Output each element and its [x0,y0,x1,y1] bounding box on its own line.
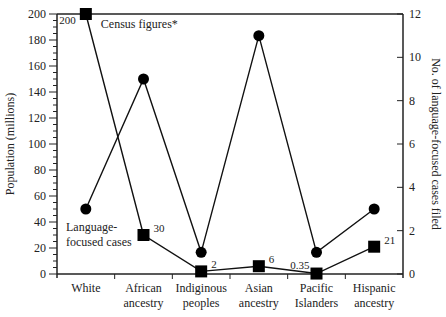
x-tick-label: Indiginous [175,281,227,295]
left-tick-label: 0 [40,267,46,281]
cases-line [86,36,374,253]
chart: 020406080100120140160180200024681012Whit… [0,0,446,317]
left-tick-label: 180 [28,33,46,47]
x-tick-label: Pacific [300,281,333,295]
x-tick-label: ancestry [239,296,279,310]
right-tick-label: 8 [409,94,415,108]
census-data-label: 2 [211,258,217,270]
census-data-label: 30 [154,222,166,234]
cases-circle-marker [311,247,322,258]
left-tick-label: 60 [34,189,46,203]
census-data-label: 200 [59,14,76,26]
left-tick-label: 40 [34,215,46,229]
x-tick-label: Islanders [295,296,339,310]
x-tick-label: ancestry [124,296,164,310]
left-tick-label: 140 [28,85,46,99]
census-square-marker [253,260,265,272]
left-tick-label: 120 [28,111,46,125]
census-data-label: 21 [384,234,395,246]
right-tick-label: 0 [409,267,415,281]
x-tick-label: ancestry [354,296,394,310]
x-tick-label: White [71,281,100,295]
census-square-marker [138,229,150,241]
line-chart: 020406080100120140160180200024681012Whit… [0,0,446,317]
x-tick-label: peoples [183,296,220,310]
right-axis-title: No. of language-focused cases filed [429,58,443,230]
census-square-marker [80,8,92,20]
x-tick-label: Asian [245,281,273,295]
left-tick-label: 100 [28,137,46,151]
right-tick-label: 2 [409,224,415,238]
cases-circle-marker [253,30,264,41]
census-series-label: Census figures* [101,17,178,31]
census-data-label: 0.35 [290,259,310,271]
left-tick-label: 80 [34,163,46,177]
x-tick-label: Hispanic [353,281,396,295]
census-square-marker [311,268,323,280]
census-square-marker [195,265,207,277]
left-tick-label: 200 [28,7,46,21]
right-tick-label: 6 [409,137,415,151]
census-square-marker [368,241,380,253]
cases-series-label-line1: Language- [66,220,117,234]
cases-series-label-line2: focused cases [66,235,132,249]
right-tick-label: 4 [409,180,415,194]
left-tick-label: 160 [28,59,46,73]
left-tick-label: 20 [34,241,46,255]
right-tick-label: 10 [409,50,421,64]
census-data-label: 6 [269,253,275,265]
cases-circle-marker [138,74,149,85]
cases-circle-marker [196,247,207,258]
x-tick-label: African [125,281,162,295]
cases-circle-marker [80,204,91,215]
cases-circle-marker [369,204,380,215]
right-tick-label: 12 [409,7,421,21]
left-axis-title: Population (millions) [3,93,17,195]
